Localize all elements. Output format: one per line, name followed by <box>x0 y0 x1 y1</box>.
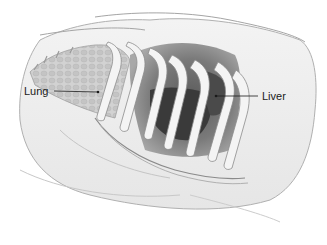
anatomy-figure: Lung Liver <box>0 0 327 245</box>
lung-pointer-dot <box>97 91 100 94</box>
liver-pointer-dot <box>215 95 218 98</box>
liver-region <box>130 43 241 157</box>
thorax-illustration <box>0 0 327 245</box>
lung-label: Lung <box>24 86 48 97</box>
liver-label: Liver <box>262 91 286 102</box>
